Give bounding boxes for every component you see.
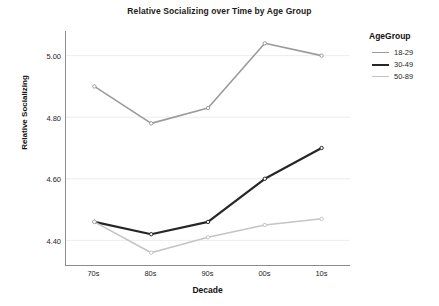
chart-title: Relative Socializing over Time by Age Gr… [0, 6, 439, 16]
data-point [206, 106, 209, 109]
legend-swatch-icon [372, 52, 389, 53]
gridlines [66, 56, 350, 241]
chart-figure: Relative Socializing over Time by Age Gr… [0, 0, 439, 306]
data-point [206, 236, 209, 239]
data-point [150, 233, 153, 236]
data-point [320, 146, 323, 149]
x-tick-label: 10s [302, 269, 342, 278]
data-point [263, 223, 266, 226]
data-point [320, 217, 323, 220]
data-point [263, 42, 266, 45]
legend-entry-50-89[interactable]: 50-89 [369, 71, 437, 82]
data-point [320, 54, 323, 57]
data-point [150, 251, 153, 254]
data-point [93, 85, 96, 88]
legend-label: 30-49 [394, 60, 413, 69]
legend-entry-18-29[interactable]: 18-29 [369, 47, 437, 58]
x-tick-label: 90s [188, 269, 228, 278]
y-tick-label: 4.40 [21, 237, 61, 246]
x-axis-title: Decade [65, 285, 350, 295]
legend-entry-30-49[interactable]: 30-49 [369, 59, 437, 70]
x-tick-label: 70s [74, 269, 114, 278]
data-point [150, 122, 153, 125]
legend-swatch-icon [372, 64, 389, 66]
legend-swatch-icon [372, 76, 389, 77]
legend-entries: 18-2930-4950-89 [369, 47, 437, 82]
chart-legend: AgeGroup 18-2930-4950-89 [369, 31, 437, 83]
x-tick-label: 80s [131, 269, 171, 278]
legend-label: 50-89 [394, 72, 413, 81]
x-axis-tick-labels: 70s80s90s00s10s [65, 269, 350, 283]
x-tick-label: 00s [245, 269, 285, 278]
y-axis-title: Relative Socializing [20, 43, 29, 183]
legend-label: 18-29 [394, 48, 413, 57]
legend-title: AgeGroup [369, 31, 437, 41]
data-point [93, 220, 96, 223]
plot-svg [66, 31, 350, 265]
data-point [206, 220, 209, 223]
plot-area [65, 31, 350, 266]
data-point [263, 177, 266, 180]
